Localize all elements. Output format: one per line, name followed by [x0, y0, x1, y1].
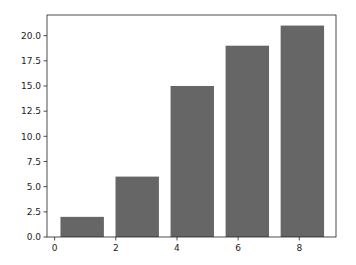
y-tick-label: 15.0 [21, 81, 41, 91]
y-axis-ticks: 0.02.55.07.510.012.515.017.520.0 [21, 31, 47, 242]
bar [116, 177, 159, 237]
y-tick-label: 10.0 [21, 132, 41, 142]
y-tick-label: 12.5 [21, 106, 41, 116]
x-axis-ticks: 02468 [52, 237, 303, 253]
y-tick-label: 2.5 [27, 207, 41, 217]
x-tick-label: 6 [235, 243, 241, 253]
y-tick-label: 20.0 [21, 31, 41, 41]
bar [171, 86, 214, 237]
y-tick-label: 17.5 [21, 56, 41, 66]
bar [60, 217, 103, 237]
y-tick-label: 5.0 [27, 182, 42, 192]
x-tick-label: 4 [174, 243, 180, 253]
bar [281, 26, 324, 237]
bar-chart: 02468 0.02.55.07.510.012.515.017.520.0 [0, 0, 356, 265]
y-tick-label: 7.5 [27, 157, 41, 167]
bar-chart-figure: 02468 0.02.55.07.510.012.515.017.520.0 [0, 0, 356, 265]
x-tick-label: 0 [52, 243, 58, 253]
x-tick-label: 8 [296, 243, 302, 253]
x-tick-label: 2 [113, 243, 119, 253]
bar [226, 46, 269, 237]
bar-series [60, 26, 324, 237]
y-tick-label: 0.0 [27, 232, 42, 242]
